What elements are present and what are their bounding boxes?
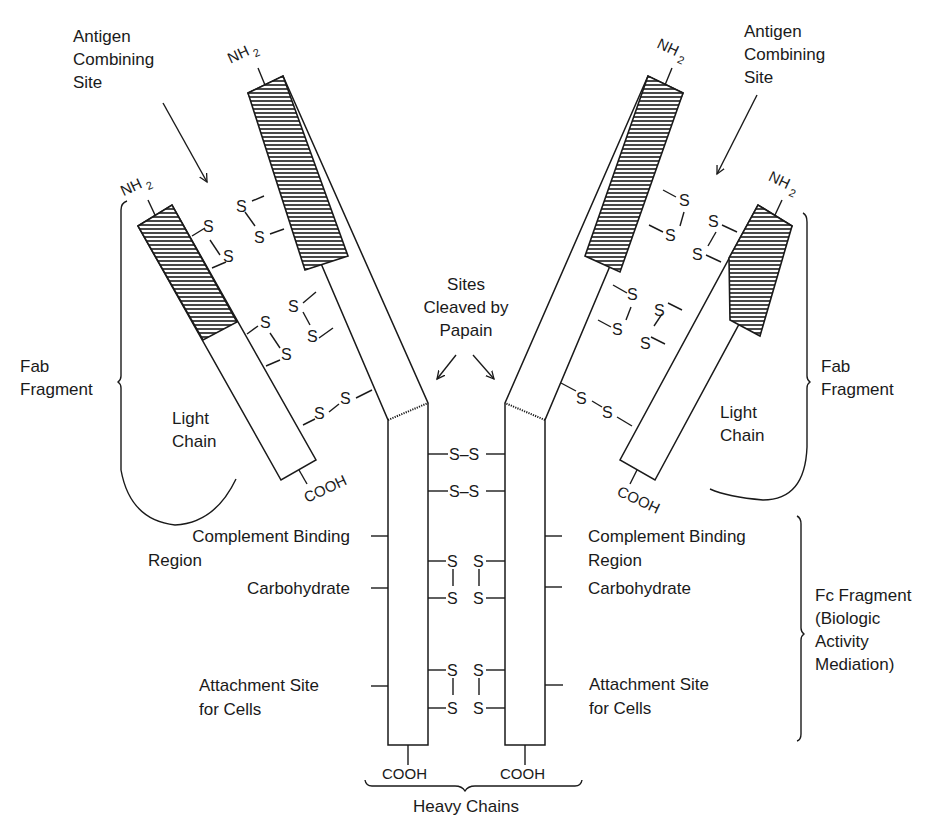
s-atom: S [627,286,638,303]
svg-text:Cleaved by: Cleaved by [423,298,509,317]
s-atom: S [236,198,247,215]
antigen-site-right-label: Antigen Combining Site [744,22,825,87]
s-atom: S [314,405,325,422]
svg-text:Fab: Fab [821,357,850,376]
s-atom: S [340,390,351,407]
svg-text:Site: Site [73,73,102,92]
s-atom: S [473,662,484,679]
left-light-nh2-bond [148,200,155,215]
antigen-site-right-arrow [717,95,757,174]
antibody-structure-diagram: S S S S S S S S S S S S [0,0,944,840]
left-heavy-cooh-label: COOH [382,765,427,782]
svg-text:Complement Binding: Complement Binding [588,527,746,546]
s-atom: S [203,218,214,235]
svg-text:Chain: Chain [720,426,764,445]
svg-text:(Biologic: (Biologic [815,609,881,628]
left-heavy-nh2-bond [258,68,265,85]
s-atom: S [654,302,665,319]
right-light-cooh-label: COOH [615,482,663,516]
svg-text:2: 2 [144,179,155,192]
disulfide-bond-label: S–S [449,446,479,463]
svg-text:Activity: Activity [815,632,869,651]
light-chain-right-label: Light Chain [720,403,764,445]
svg-text:Combining: Combining [73,50,154,69]
right-heavy-nh2-label: NH 2 [653,34,690,66]
left-light-chain [138,200,316,484]
antigen-site-left-label: Antigen Combining Site [73,27,154,92]
s-atom: S [473,590,484,607]
svg-text:Fragment: Fragment [821,380,894,399]
antigen-site-left-arrow [163,103,207,182]
disulfide-bond-label: S–S [449,483,479,500]
light-chain-left-label: Light Chain [172,409,216,451]
svg-text:NH: NH [225,42,252,67]
svg-text:Region: Region [588,551,642,570]
svg-text:2: 2 [251,46,262,59]
complement-left-label: Complement Binding Region [148,527,350,570]
svg-text:2: 2 [787,186,798,199]
s-atom: S [708,213,719,230]
svg-text:Attachment Site: Attachment Site [589,675,709,694]
svg-text:2: 2 [676,53,687,66]
svg-text:for Cells: for Cells [199,700,261,719]
svg-text:Papain: Papain [440,321,493,340]
heavy-chain-disulfide-bonds: S–S S–S S S S S S S S S [428,446,505,717]
svg-text:Region: Region [148,551,202,570]
attachment-right-label: Attachment Site for Cells [589,675,709,718]
left-light-cooh-bond [299,470,307,484]
s-atom: S [612,321,623,338]
complement-right-label: Complement Binding Region [588,527,746,570]
svg-text:Antigen: Antigen [744,22,802,41]
svg-text:Fragment: Fragment [20,380,93,399]
s-atom: S [260,314,271,331]
svg-text:Fab: Fab [20,357,49,376]
s-atom: S [281,346,292,363]
fc-bracket [797,516,804,741]
heavy-chains-label: Heavy Chains [413,797,519,816]
s-atom: S [473,700,484,717]
s-atom: S [692,246,703,263]
s-atom: S [254,229,265,246]
left-light-nh2-label: NH 2 [118,170,155,202]
carbohydrate-left-label: Carbohydrate [247,579,350,598]
svg-text:Chain: Chain [172,432,216,451]
s-atom: S [679,192,690,209]
left-light-cooh-label: COOH [301,471,349,505]
papain-left-arrow [437,355,456,379]
papain-right-arrow [473,355,494,379]
s-atom: S [447,662,458,679]
s-atom: S [447,590,458,607]
s-atom: S [307,328,318,345]
right-heavy-nh2-bond [665,68,672,85]
svg-text:Complement Binding: Complement Binding [192,527,350,546]
s-atom: S [473,553,484,570]
fc-fragment-label: Fc Fragment (Biologic Activity Mediation… [815,586,912,674]
svg-text:Fc Fragment: Fc Fragment [815,586,912,605]
s-atom: S [665,227,676,244]
right-light-nh2-bond [775,200,782,215]
svg-text:Combining: Combining [744,45,825,64]
svg-text:Site: Site [744,68,773,87]
svg-text:Antigen: Antigen [73,27,131,46]
s-atom: S [223,248,234,265]
left-light-variable-region [138,205,237,340]
right-light-variable-region [729,205,792,336]
s-atom: S [576,390,587,407]
svg-text:NH: NH [766,167,793,192]
svg-text:for Cells: for Cells [589,699,651,718]
svg-text:Light: Light [720,403,757,422]
s-atom: S [447,553,458,570]
terminus-labels: NH 2 NH 2 NH 2 NH 2 COOH COOH COOH COOH [118,34,802,782]
svg-text:NH: NH [118,174,145,199]
fab-left-label: Fab Fragment [20,357,93,399]
s-atom: S [288,298,299,315]
s-atom: S [447,700,458,717]
svg-text:Mediation): Mediation) [815,655,894,674]
attachment-left-label: Attachment Site for Cells [199,676,319,719]
right-light-cooh-bond [630,470,637,484]
right-heavy-cooh-label: COOH [500,765,545,782]
svg-text:NH: NH [655,34,682,59]
fab-right-label: Fab Fragment [821,357,894,399]
s-atom: S [640,335,651,352]
papain-label: Sites Cleaved by Papain [423,275,509,340]
